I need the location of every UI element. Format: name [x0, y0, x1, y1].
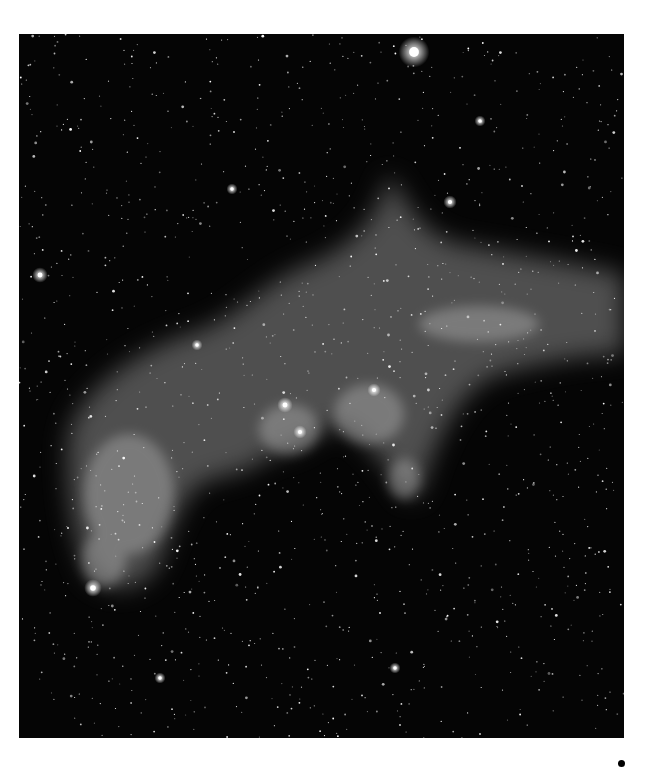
marker-dot: [618, 760, 625, 767]
star-field: [19, 34, 624, 738]
nebula-photo: [19, 34, 624, 738]
